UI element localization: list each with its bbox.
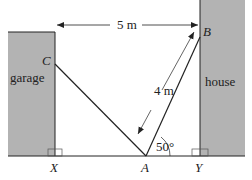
- point-a-label: A: [141, 161, 149, 174]
- ladder-length-label: 4 m: [154, 84, 174, 97]
- garage-label: garage: [10, 71, 45, 84]
- garage-block: [8, 32, 55, 156]
- point-x-label: X: [50, 161, 58, 174]
- distance-label: 5 m: [117, 18, 137, 31]
- ladder-ac: [55, 64, 146, 156]
- angle-label: 50°: [156, 140, 174, 153]
- point-c-label: C: [42, 54, 51, 67]
- house-label: house: [205, 75, 235, 88]
- point-b-label: B: [203, 25, 211, 38]
- ladder-diagram: garage house 5 m 4 m 50° A B C X Y: [0, 0, 252, 180]
- point-y-label: Y: [195, 161, 202, 174]
